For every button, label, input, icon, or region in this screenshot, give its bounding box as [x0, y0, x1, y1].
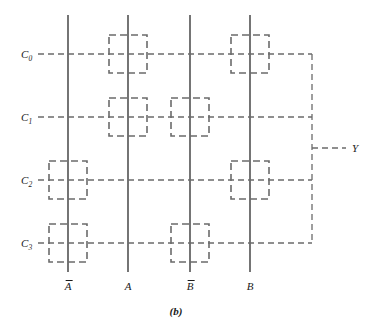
row-label-base: C [21, 48, 28, 60]
row-label-subscript: 2 [29, 179, 33, 188]
row-label-C3: C3 [21, 238, 32, 249]
row-label-C1: C1 [21, 112, 32, 123]
row-label-base: C [21, 111, 28, 123]
column-label-Anot: A [65, 281, 72, 292]
crosspoint-cells [49, 35, 269, 262]
column-label-Bnot: B [187, 281, 194, 292]
row-label-base: C [21, 237, 28, 249]
column-label-A: A [125, 281, 132, 292]
column-label-text-complemented: B [187, 281, 194, 292]
column-label-text: B [247, 280, 254, 292]
output-label-Y: Y [352, 143, 358, 154]
row-label-subscript: 0 [29, 53, 33, 62]
row-label-subscript: 3 [29, 242, 33, 251]
column-label-text-complemented: A [65, 281, 72, 292]
column-label-text: A [125, 280, 132, 292]
row-label-C0: C0 [21, 49, 32, 60]
row-label-C2: C2 [21, 175, 32, 186]
row-label-subscript: 1 [29, 116, 33, 125]
product-term-row-lines [38, 54, 312, 243]
row-label-base: C [21, 174, 28, 186]
column-label-B: B [247, 281, 254, 292]
pla-matrix-diagram: C0C1C2C3 AABB Y (b) [0, 0, 373, 329]
figure-caption: (b) [170, 305, 183, 317]
output-bus-line [312, 54, 346, 243]
